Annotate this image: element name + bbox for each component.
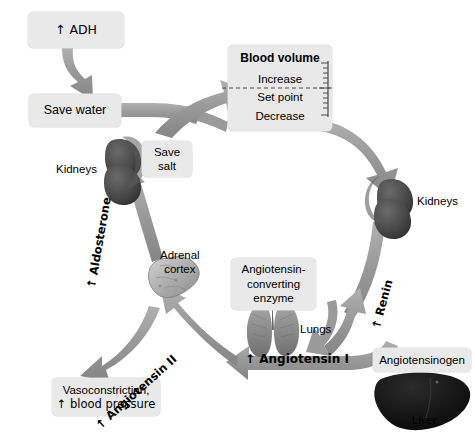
box-save-salt[interactable]: Save salt <box>142 141 192 177</box>
box-angiotensin-converting-enzyme[interactable]: Angiotensin- converting enzyme <box>231 258 316 310</box>
box-angiotensinogen-label: Angiotensinogen <box>379 353 465 367</box>
label-kidneys-right: Kidneys <box>417 195 458 207</box>
box-save-water[interactable]: Save water <box>29 94 121 127</box>
label-lungs: Lungs <box>300 323 331 335</box>
kidney-icon-right <box>365 176 413 239</box>
diagram-canvas: ↑ ADH Save water Blood volume Increase S… <box>0 0 475 441</box>
label-liver: Liver <box>412 414 437 426</box>
arrow-label-angiotensin-i: ↑ Angiotensin I <box>245 352 349 366</box>
box-angiotensinogen[interactable]: Angiotensinogen <box>373 348 471 372</box>
label-adrenal-cortex: Adrenal cortex <box>160 249 200 277</box>
box-save-salt-label: Save salt <box>154 145 180 174</box>
set-point-scale <box>220 45 340 135</box>
box-adh-label: ↑ ADH <box>55 22 97 38</box>
box-save-water-label: Save water <box>44 103 107 119</box>
box-ace-label: Angiotensin- converting enzyme <box>242 262 306 305</box>
label-kidneys-left: Kidneys <box>56 163 97 175</box>
box-adh[interactable]: ↑ ADH <box>28 12 124 48</box>
kidney-icon-left <box>104 137 146 206</box>
